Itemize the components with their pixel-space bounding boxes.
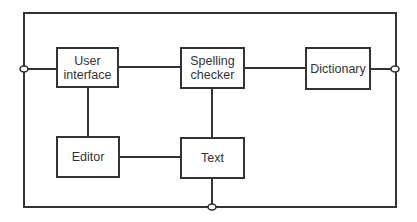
- node-spelling-checker-line2: checker: [191, 68, 235, 82]
- node-user-interface-line1: User: [74, 54, 100, 68]
- node-text-label: Text: [201, 151, 224, 165]
- node-editor: Editor: [56, 136, 120, 178]
- node-editor-label: Editor: [72, 150, 105, 164]
- node-user-interface-line2: interface: [64, 68, 112, 82]
- node-spelling-checker-line1: Spelling: [190, 54, 234, 68]
- diagram-lines: [0, 0, 417, 222]
- node-dictionary: Dictionary: [305, 47, 371, 90]
- node-text: Text: [180, 137, 245, 179]
- node-dictionary-label: Dictionary: [310, 62, 366, 76]
- bottom-port-icon: [208, 204, 216, 210]
- left-port-icon: [20, 66, 28, 72]
- right-port-icon: [391, 66, 399, 72]
- node-spelling-checker: Spelling checker: [180, 47, 245, 89]
- node-user-interface: User interface: [56, 47, 119, 88]
